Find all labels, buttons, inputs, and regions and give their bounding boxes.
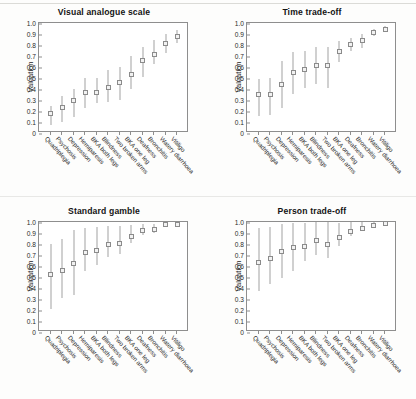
data-marker (348, 42, 353, 47)
x-tick-mark (61, 331, 62, 334)
data-marker (325, 242, 330, 247)
x-tick-mark (338, 331, 339, 334)
x-tick-mark (269, 331, 270, 334)
x-tick-label-group: QuadriplegiaPsychosisDepressionHemipares… (38, 133, 188, 195)
data-marker (291, 70, 296, 75)
x-tick-mark (165, 331, 166, 334)
y-tick-label: 0.7 (27, 53, 39, 60)
data-marker (140, 228, 145, 233)
x-tick-mark (142, 331, 143, 334)
y-tick-label: 1.0 (235, 20, 247, 27)
data-marker (71, 98, 76, 103)
x-tick-mark (50, 132, 51, 135)
panel-title: Person trade-off (208, 206, 416, 216)
y-tick-label: 0.8 (235, 42, 247, 49)
data-marker (152, 52, 157, 57)
data-marker (256, 260, 261, 265)
plot-area: Valuation 1.00.90.80.70.60.50.40.30.20.1… (246, 22, 396, 132)
error-bar (73, 89, 74, 117)
panel-time-trade-off: Time trade-off Valuation 1.00.90.80.70.6… (208, 0, 416, 199)
panel-standard-gamble: Standard gamble Valuation 1.00.90.80.70.… (0, 199, 208, 399)
y-tick-label: 0.1 (235, 119, 247, 126)
x-tick-mark (327, 331, 328, 334)
x-tick-mark (327, 132, 328, 135)
x-tick-mark (96, 331, 97, 334)
x-tick-mark (373, 331, 374, 334)
y-tick-label: 0.7 (235, 53, 247, 60)
y-tick-label: 0.5 (235, 274, 247, 281)
x-tick-label-group: QuadriplegiaPsychosisDepressionHemipares… (38, 332, 188, 394)
x-tick-mark (269, 132, 270, 135)
x-tick-mark (61, 132, 62, 135)
data-series (247, 23, 395, 131)
x-tick-mark (338, 132, 339, 135)
x-tick-mark (153, 331, 154, 334)
y-tick-label: 1.0 (27, 219, 39, 226)
y-tick-label: 0.1 (27, 318, 39, 325)
panel-person-trade-off: Person trade-off Valuation 1.00.90.80.70… (208, 199, 416, 399)
x-tick-mark (292, 132, 293, 135)
x-tick-mark (384, 331, 385, 334)
x-tick-mark (176, 331, 177, 334)
x-tick-mark (73, 331, 74, 334)
y-tick-label: 0.8 (235, 241, 247, 248)
data-marker (291, 245, 296, 250)
data-marker (302, 67, 307, 72)
y-tick-label: 0.2 (235, 307, 247, 314)
data-marker (383, 27, 388, 32)
data-marker (48, 272, 53, 277)
data-marker (71, 261, 76, 266)
x-tick-mark (350, 132, 351, 135)
data-marker (94, 248, 99, 253)
data-marker (106, 242, 111, 247)
plot-area: Valuation 1.00.90.80.70.60.50.40.30.20.1… (246, 221, 396, 331)
x-tick-mark (350, 331, 351, 334)
y-tick-label: 1.0 (27, 20, 39, 27)
y-tick-label: 0.2 (27, 307, 39, 314)
data-marker (106, 85, 111, 90)
x-tick-mark (153, 132, 154, 135)
data-marker (256, 92, 261, 97)
data-marker (268, 256, 273, 261)
error-bar (258, 79, 259, 116)
data-marker (140, 58, 145, 63)
y-tick-label: 0.3 (27, 296, 39, 303)
plot-area: Valuation 1.00.90.80.70.60.50.40.30.20.1… (38, 221, 188, 331)
data-marker (117, 241, 122, 246)
y-tick-label: 0.4 (27, 285, 39, 292)
y-tick-label: 0.6 (235, 64, 247, 71)
x-tick-label-group: QuadriplegiaPsychosisDepressionHemipares… (246, 133, 396, 195)
data-marker (94, 90, 99, 95)
x-tick-mark (130, 132, 131, 135)
data-marker (60, 105, 65, 110)
data-marker (175, 34, 180, 39)
x-tick-mark (107, 331, 108, 334)
data-series (39, 23, 187, 131)
x-tick-mark (73, 132, 74, 135)
y-tick-label: 0.7 (27, 252, 39, 259)
x-tick-mark (361, 331, 362, 334)
panel-grid: Visual analogue scale Valuation 1.00.90.… (0, 0, 416, 399)
x-tick-mark (315, 331, 316, 334)
y-tick-label: 0.9 (235, 230, 247, 237)
y-tick-label: 0.3 (235, 296, 247, 303)
x-tick-mark (281, 132, 282, 135)
y-tick-label: 0.7 (235, 252, 247, 259)
panel-title: Standard gamble (0, 206, 208, 216)
figure-canvas: Visual analogue scale Valuation 1.00.90.… (0, 0, 416, 399)
data-marker (60, 268, 65, 273)
y-tick-label: 0.8 (27, 241, 39, 248)
data-marker (175, 222, 180, 227)
error-bar (327, 222, 328, 258)
x-tick-mark (361, 132, 362, 135)
data-series (247, 222, 395, 330)
y-tick-label: 0.1 (27, 119, 39, 126)
panel-title: Time trade-off (208, 7, 416, 17)
plot-area: Valuation 1.00.90.80.70.60.50.40.30.20.1… (38, 22, 188, 132)
x-tick-mark (384, 132, 385, 135)
x-tick-mark (292, 331, 293, 334)
x-tick-mark (96, 132, 97, 135)
data-marker (348, 229, 353, 234)
data-marker (279, 82, 284, 87)
error-bar (96, 227, 97, 265)
